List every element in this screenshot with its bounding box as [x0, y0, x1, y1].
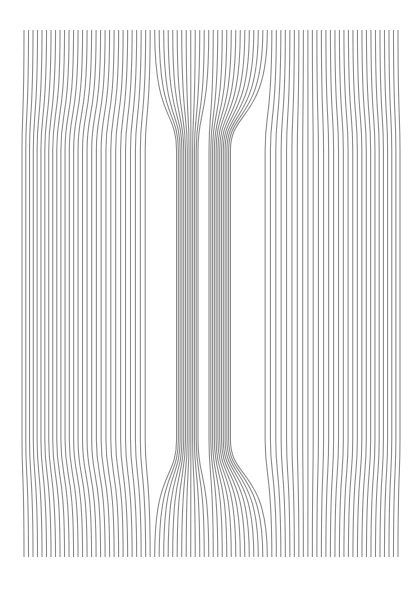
curve-line: [366, 30, 370, 557]
line-field: [22, 30, 400, 557]
curve-line: [297, 30, 299, 557]
curve-line: [111, 30, 119, 557]
curve-line: [276, 30, 281, 557]
curve-line: [384, 30, 387, 557]
curve-line: [116, 30, 123, 557]
curve-line: [287, 30, 290, 557]
curve-line: [303, 30, 304, 557]
curve-line: [106, 30, 114, 557]
curve-line: [194, 30, 199, 557]
curve-line: [26, 30, 29, 557]
curve-line: [317, 30, 319, 557]
curve-line: [362, 30, 366, 557]
curve-line: [292, 30, 294, 557]
curve-line: [326, 30, 329, 557]
curve-line: [49, 30, 56, 557]
curve-line: [348, 30, 352, 557]
curve-line: [182, 30, 188, 557]
curve-line: [393, 30, 395, 557]
curve-line: [22, 30, 24, 557]
curve-line: [121, 30, 128, 557]
curve-line: [339, 30, 343, 557]
curve-line: [30, 30, 33, 557]
curve-line: [335, 30, 339, 557]
curve-line: [375, 30, 379, 557]
curve-line: [126, 30, 133, 557]
curve-line: [229, 30, 263, 557]
curve-line: [101, 30, 109, 557]
curve-line: [344, 30, 348, 557]
curve-line: [398, 30, 400, 557]
line-art-figure: [0, 0, 419, 589]
curve-line: [312, 30, 313, 557]
curve-line: [389, 30, 392, 557]
curve-line: [357, 30, 361, 557]
curve-line: [41, 30, 47, 557]
curve-line: [145, 30, 150, 557]
curve-line: [321, 30, 323, 557]
curve-line: [281, 30, 285, 557]
curve-line: [371, 30, 375, 557]
curve-line: [353, 30, 357, 557]
curve-line: [330, 30, 333, 557]
curve-line: [45, 30, 51, 557]
curve-line: [380, 30, 383, 557]
